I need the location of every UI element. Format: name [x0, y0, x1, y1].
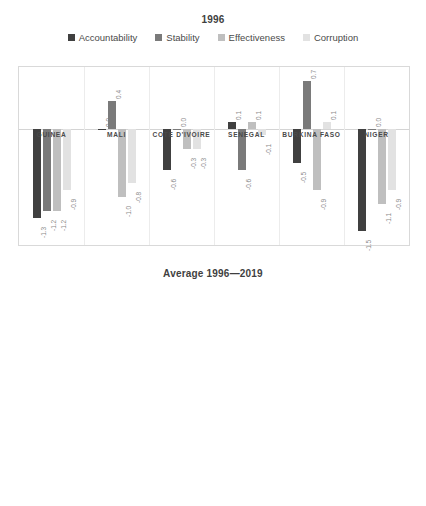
bar-value-label: 0.1 — [255, 111, 262, 120]
chart-legend: Accountability Stability Effectiveness C… — [0, 32, 426, 43]
bar-value-label: 0.1 — [330, 111, 337, 120]
category-label-2: COTE D'IVOIRE — [153, 131, 211, 138]
category-label-1: MALI — [107, 131, 126, 138]
bar-effectiveness-0 — [53, 129, 61, 211]
bar-value-label: -0.9 — [320, 199, 327, 210]
legend-swatch-icon — [155, 34, 162, 41]
category-label-4: BURKINA FASO — [282, 131, 340, 138]
legend-label: Effectiveness — [229, 32, 285, 43]
bar-stability-2 — [173, 129, 181, 130]
bar-accountability-5 — [358, 129, 366, 232]
bar-value-label: 0.0 — [375, 118, 382, 127]
bar-effectiveness-4 — [313, 129, 321, 191]
bar-value-label: 0.7 — [310, 70, 317, 79]
bar-value-label: -0.9 — [395, 199, 402, 210]
group-separator — [84, 67, 85, 245]
category-label-3: SENEGAL — [228, 131, 265, 138]
bar-corruption-5 — [388, 129, 396, 191]
chart-panel-1996: 1996 Accountability Stability Effectiven… — [0, 0, 426, 258]
bar-stability-5 — [368, 129, 376, 130]
category-label-0: GUINEA — [37, 131, 67, 138]
chart-page: 1996 Accountability Stability Effectiven… — [0, 0, 426, 506]
bar-value-label: -0.8 — [135, 192, 142, 203]
group-separator — [149, 67, 150, 245]
bar-accountability-3 — [228, 122, 236, 129]
bar-stability-0 — [43, 129, 51, 211]
bar-value-label: -0.1 — [265, 144, 272, 155]
bar-value-label: -0.6 — [170, 178, 177, 189]
group-separator — [344, 67, 345, 245]
bar-effectiveness-3 — [248, 122, 256, 129]
legend-item-stability: Stability — [155, 32, 199, 43]
bar-value-label: -0.6 — [245, 178, 252, 189]
legend-swatch-icon — [218, 34, 225, 41]
legend-label: Corruption — [314, 32, 358, 43]
bar-stability-4 — [303, 81, 311, 129]
category-label-5: NIGER — [364, 131, 388, 138]
plot-area-1996: -1.3-1.2-1.2-0.9GUINEA0.00.4-1.0-0.8MALI… — [18, 66, 410, 246]
bar-value-label: 0.1 — [235, 111, 242, 120]
chart-title-average: Average 1996—2019 — [0, 268, 426, 279]
legend-item-corruption: Corruption — [303, 32, 358, 43]
bar-effectiveness-5 — [378, 129, 386, 204]
chart-panel-average: Average 1996—2019 0.20.0-0.2-0.4-0.6-0.8… — [0, 258, 426, 506]
bar-value-label: -1.2 — [50, 220, 57, 231]
bar-value-label: -1.1 — [385, 213, 392, 224]
bar-value-label: -1.5 — [365, 240, 372, 251]
bar-value-label: -1.3 — [40, 226, 47, 237]
legend-swatch-icon — [303, 34, 310, 41]
legend-item-effectiveness: Effectiveness — [218, 32, 285, 43]
group-separator — [279, 67, 280, 245]
bar-value-label: -1.0 — [125, 206, 132, 217]
bar-accountability-1 — [98, 129, 106, 130]
bar-value-label: -0.9 — [70, 199, 77, 210]
bar-value-label: -0.5 — [300, 172, 307, 183]
bar-value-label: -0.3 — [190, 158, 197, 169]
bar-value-label: -0.3 — [200, 158, 207, 169]
legend-item-accountability: Accountability — [68, 32, 138, 43]
bar-stability-1 — [108, 101, 116, 128]
bar-value-label: 0.4 — [115, 90, 122, 99]
legend-label: Stability — [166, 32, 199, 43]
bar-corruption-1 — [128, 129, 136, 184]
chart-title-1996: 1996 — [0, 14, 426, 25]
legend-label: Accountability — [79, 32, 138, 43]
bar-value-label: -1.2 — [60, 220, 67, 231]
group-separator — [214, 67, 215, 245]
bar-corruption-4 — [323, 122, 331, 129]
legend-swatch-icon — [68, 34, 75, 41]
bar-corruption-0 — [63, 129, 71, 191]
bar-value-label: 0.0 — [180, 118, 187, 127]
bar-effectiveness-1 — [118, 129, 126, 197]
bar-accountability-0 — [33, 129, 41, 218]
